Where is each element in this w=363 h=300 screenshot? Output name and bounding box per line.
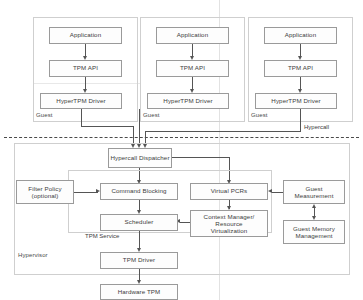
arrowhead-measurement-to-pcrs [268, 189, 272, 193]
guest-measurement-box[interactable]: Guest Measurement [283, 180, 345, 204]
hypercall-route-2-vertical [139, 109, 140, 146]
hypercall-boundary-label: Hypercall [303, 124, 330, 130]
filter-policy-label-line2: (optional) [32, 192, 59, 199]
connector-filter-to-command-blocking [74, 192, 98, 193]
command-blocking-box[interactable]: Command Blocking [100, 183, 178, 200]
application-box-2[interactable]: Application [156, 27, 229, 44]
hypercall-route-3-horizontal [145, 131, 301, 132]
hypertpm-driver-box-1[interactable]: HyperTPM Driver [40, 93, 122, 109]
guest-zone-label-2: Guest [143, 112, 160, 118]
tpm-driver-box[interactable]: TPM Driver [100, 252, 178, 269]
guest-memory-management-box[interactable]: Guest Memory Management [283, 220, 345, 244]
hypercall-route-1-vertical [81, 109, 82, 126]
hypercall-route-3-vertical [300, 109, 301, 131]
guest-zone-label-1: Guest [36, 112, 53, 118]
hypertpm-driver-box-2[interactable]: HyperTPM Driver [147, 93, 229, 109]
guest-measurement-label-line1: Guest [305, 185, 322, 192]
context-manager-label-line1: Context Manager/ [204, 213, 255, 220]
hypertpm-driver-box-3[interactable]: HyperTPM Driver [255, 93, 337, 109]
tpm-api-box-3[interactable]: TPM API [264, 60, 337, 77]
hypervisor-zone-label: Hypervisor [18, 252, 48, 258]
connector-dispatcher-to-pcrs-horizontal [172, 157, 230, 158]
guest-zone-label-3: Guest [251, 112, 268, 118]
application-box-1[interactable]: Application [49, 27, 122, 44]
guest-measurement-label-line2: Measurement [295, 192, 334, 199]
hardware-tpm-box[interactable]: Hardware TPM [100, 284, 178, 300]
guest-hypervisor-divider [4, 137, 359, 138]
hypercall-dispatcher-label-line1: Hypercall Dispatcher [110, 154, 169, 161]
context-manager-box[interactable]: Context Manager/ Resource Virtualization [190, 210, 268, 237]
connector-context-manager-to-scheduler [180, 222, 190, 223]
virtual-pcrs-box[interactable]: Virtual PCRs [190, 183, 268, 200]
guest-memory-label-line1: Guest Memory [293, 225, 335, 232]
arrowhead-memory-to-measurement [312, 204, 316, 208]
hypercall-dispatcher-box[interactable]: Hypercall Dispatcher [108, 148, 172, 168]
architecture-diagram: Application TPM API HyperTPM Driver Gues… [0, 0, 363, 300]
connector-measurement-to-pcrs [272, 192, 283, 193]
hypercall-route-1-horizontal [81, 126, 134, 127]
tpm-api-box-2[interactable]: TPM API [156, 60, 229, 77]
scheduler-box[interactable]: Scheduler [100, 214, 178, 231]
guest-memory-label-line2: Management [295, 232, 332, 239]
tpm-api-box-1[interactable]: TPM API [49, 60, 122, 77]
application-box-3[interactable]: Application [264, 27, 337, 44]
filter-policy-box[interactable]: Filter Policy (optional) [16, 180, 74, 204]
context-manager-label-line2: Resource [215, 220, 242, 227]
filter-policy-label-line1: Filter Policy [28, 185, 61, 192]
tpm-service-label: TPM Service [84, 233, 120, 239]
context-manager-label-line3: Virtualization [211, 227, 248, 234]
